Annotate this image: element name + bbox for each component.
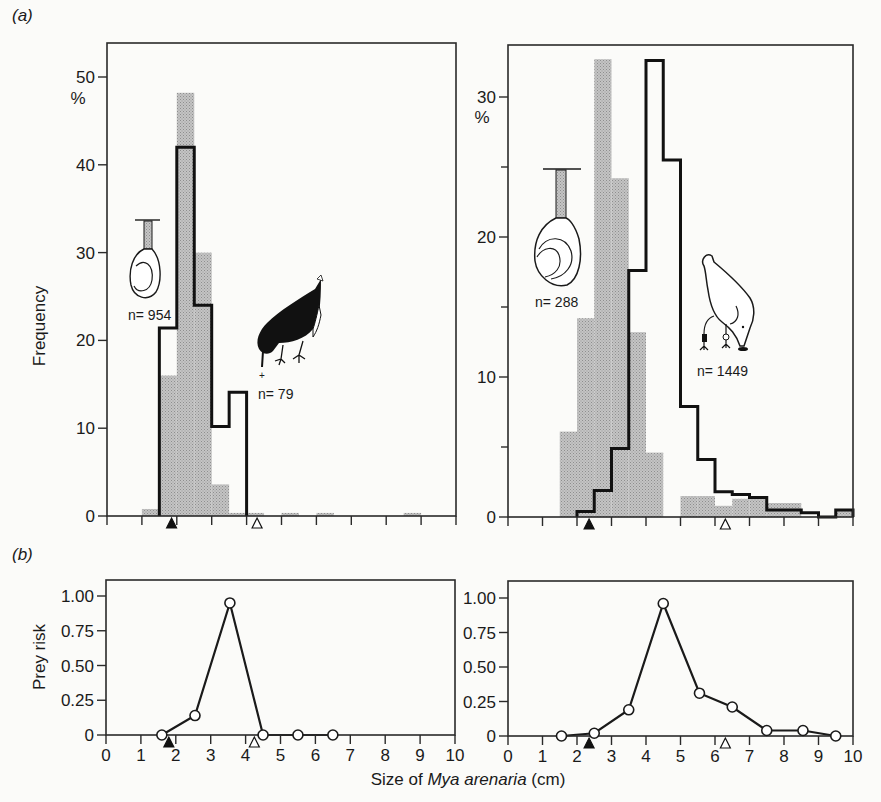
y-tick-label: 20 (76, 331, 95, 350)
histogram-bar-available (681, 496, 698, 517)
mean-size-available-marker-icon (584, 738, 594, 748)
histogram-bar-available (715, 506, 732, 517)
histogram-bar-available (698, 496, 715, 517)
clam-icon-right (535, 169, 581, 286)
x-tick-label: 3 (206, 746, 215, 765)
x-tick-label: 10 (446, 746, 465, 765)
histogram-bar-available (612, 178, 629, 517)
histogram-bar-available (560, 432, 577, 517)
histogram-bar-available (177, 93, 194, 516)
y-tick-label: 0.25 (463, 693, 496, 712)
x-tick-label: 7 (745, 747, 754, 766)
x-tick-label: 2 (171, 746, 180, 765)
prey-risk-point (556, 731, 566, 741)
right-clam-sample-size: n= 288 (535, 294, 578, 310)
mean-size-taken-marker-icon (720, 738, 730, 748)
left-clam-sample-size: n= 954 (128, 307, 171, 323)
prey-risk-point (658, 599, 668, 609)
svg-text:+: + (259, 370, 265, 381)
prey-risk-line (162, 603, 333, 735)
histogram-bar-available (142, 509, 159, 516)
y-tick-label: 0 (85, 726, 94, 745)
panel-b-label: (b) (12, 545, 33, 564)
y-tick-label: 0 (86, 507, 95, 526)
prey-risk-point (328, 730, 338, 740)
mean-size-taken-marker-icon (720, 519, 730, 529)
panel-a-label: (a) (12, 6, 33, 25)
x-tick-label: 1 (136, 746, 145, 765)
prey-risk-point (798, 725, 808, 735)
x-tick-label: 6 (710, 747, 719, 766)
histogram-bar-available (646, 453, 663, 517)
prey-risk-point (694, 688, 704, 698)
plot-frame (106, 580, 455, 735)
prey-risk-plot-left: 00.250.500.751.00012345678910 (61, 580, 465, 765)
y-tick-label: 0.25 (61, 691, 94, 710)
prey-risk-point (589, 728, 599, 738)
oystercatcher-icon: + (257, 275, 323, 381)
histogram-bar-available (629, 332, 646, 517)
prey-risk-point (727, 702, 737, 712)
figure-canvas: (a) (b) Frequency Prey risk % % 01020304… (0, 0, 881, 802)
prey-risk-plot-right: 00.250.500.751.00012345678910 (463, 581, 863, 766)
prey-risk-point (831, 731, 841, 741)
prey-risk-point (157, 730, 167, 740)
y-tick-label: 40 (76, 156, 95, 175)
prey-risk-line (561, 604, 835, 736)
x-tick-label: 9 (415, 746, 424, 765)
x-tick-label: 5 (676, 747, 685, 766)
percent-symbol-right: % (474, 108, 489, 127)
x-tick-label: 4 (641, 747, 650, 766)
x-tick-label: 7 (346, 746, 355, 765)
x-tick-label: 0 (101, 746, 110, 765)
mean-size-available-marker-icon (584, 519, 594, 529)
x-tick-label: 6 (311, 746, 320, 765)
x-tick-label: 9 (814, 747, 823, 766)
mean-size-taken-marker-icon (252, 518, 262, 528)
x-axis-label: Size of Mya arenaria (cm) (371, 770, 566, 789)
y-tick-label: 20 (477, 228, 496, 247)
histogram-bar-available (732, 499, 749, 517)
histogram-a-right: 0102030 (477, 45, 853, 529)
left-bird-sample-size: n= 79 (258, 386, 294, 402)
y-tick-label: 30 (477, 88, 496, 107)
gull-icon (700, 255, 754, 351)
histogram-bar-available (159, 376, 176, 516)
mean-size-available-marker-icon (167, 518, 177, 528)
y-tick-label: 0 (487, 508, 496, 527)
prey-risk-point (258, 730, 268, 740)
y-tick-label: 0.75 (463, 624, 496, 643)
y-tick-label: 0 (487, 727, 496, 746)
prey-risk-point (190, 711, 200, 721)
x-tick-label: 4 (241, 746, 250, 765)
x-tick-label: 8 (380, 746, 389, 765)
y-tick-label: 0.50 (61, 657, 94, 676)
prey-risk-point (293, 730, 303, 740)
y-tick-label: 50 (76, 68, 95, 87)
y-axis-label-frequency: Frequency (30, 285, 49, 366)
prey-risk-point (225, 598, 235, 608)
percent-symbol-left: % (70, 89, 85, 108)
x-tick-label: 2 (572, 747, 581, 766)
histogram-bar-available (594, 59, 611, 517)
mean-size-taken-marker-icon (249, 737, 259, 747)
clam-icon-left (130, 220, 160, 298)
y-tick-label: 1.00 (463, 589, 496, 608)
y-tick-label: 10 (76, 419, 95, 438)
right-bird-sample-size: n= 1449 (697, 363, 748, 379)
x-tick-label: 10 (844, 747, 863, 766)
y-tick-label: 30 (76, 244, 95, 263)
y-tick-label: 1.00 (61, 587, 94, 606)
histogram-bar-available (577, 318, 594, 517)
prey-risk-point (762, 725, 772, 735)
x-tick-label: 8 (779, 747, 788, 766)
prey-risk-point (624, 705, 634, 715)
x-tick-label: 3 (607, 747, 616, 766)
y-tick-label: 10 (477, 368, 496, 387)
plot-frame (508, 581, 853, 736)
histogram-bar-available (212, 484, 229, 516)
x-tick-label: 5 (276, 746, 285, 765)
x-tick-label: 0 (503, 747, 512, 766)
y-axis-label-prey-risk: Prey risk (30, 623, 49, 690)
histogram-bar-available (194, 253, 211, 516)
